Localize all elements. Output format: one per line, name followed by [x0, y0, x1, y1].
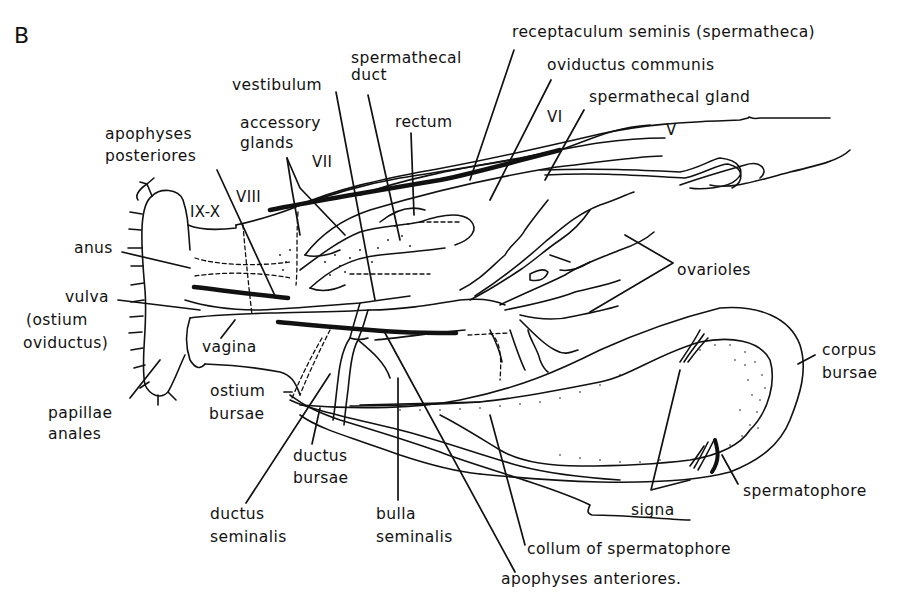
- segment-viii: VIII: [236, 188, 261, 207]
- panel-letter: B: [14, 26, 29, 45]
- ovarioles-shape: [460, 192, 654, 372]
- label-ostium-bursae-line2: bursae: [209, 405, 265, 424]
- label-spermathecal-duct-line2: duct: [351, 66, 387, 85]
- label-bulla-seminalis-line1: bulla: [376, 505, 416, 524]
- label-vagina: vagina: [202, 338, 257, 357]
- label-apophyses-posteriores-line1: apophyses: [105, 125, 192, 144]
- label-accessory-glands-line1: accessory: [240, 114, 321, 133]
- label-spermatophore: spermatophore: [743, 482, 867, 501]
- segment-vii: VII: [312, 153, 332, 172]
- label-ductus-seminalis-line2: seminalis: [210, 528, 287, 547]
- papillae-anales-shape: [128, 178, 190, 405]
- label-papillae-anales-line1: papillae: [48, 404, 112, 423]
- label-ductus-seminalis-line1: ductus: [210, 505, 265, 524]
- label-ostium-bursae-line1: ostium: [210, 382, 265, 401]
- label-anus: anus: [74, 239, 113, 258]
- dashed-lines: [195, 212, 508, 398]
- label-corpus-bursae-line2: bursae: [822, 364, 878, 383]
- label-papillae-anales-line2: anales: [48, 425, 101, 444]
- label-ovarioles: ovarioles: [677, 261, 751, 280]
- label-rectum: rectum: [395, 113, 453, 132]
- label-corpus-bursae-line1: corpus: [822, 341, 877, 360]
- segment-ix-x: IX-X: [190, 203, 221, 222]
- signa-shape: [680, 330, 718, 472]
- label-oviductus-communis: oviductus communis: [547, 56, 714, 75]
- segment-v: V: [666, 121, 677, 140]
- reproductive-system-diagram: B receptaculum seminis (spermatheca) spe…: [0, 0, 909, 599]
- label-collum-of-spermatophore: collum of spermatophore: [527, 540, 731, 559]
- corpus-bursae-shape: [290, 308, 803, 483]
- label-vulva-line3: oviductus): [23, 334, 108, 353]
- label-signa: signa: [631, 501, 675, 520]
- label-vulva-line2: (ostium: [26, 311, 88, 330]
- label-apophyses-anteriores: apophyses anteriores.: [501, 570, 681, 589]
- label-accessory-glands-line2: glands: [240, 134, 294, 153]
- label-spermathecal-gland: spermathecal gland: [589, 88, 750, 107]
- segment-vi: VI: [547, 108, 563, 127]
- label-vulva-line1: vulva: [65, 288, 109, 307]
- label-receptaculum-seminis: receptaculum seminis (spermatheca): [512, 23, 815, 42]
- label-bulla-seminalis-line2: seminalis: [376, 528, 453, 547]
- label-apophyses-posteriores-line2: posteriores: [105, 147, 196, 166]
- label-vestibulum: vestibulum: [232, 76, 322, 95]
- label-ductus-bursae-line1: ductus: [293, 447, 348, 466]
- anatomy-drawing: [0, 0, 909, 599]
- label-ductus-bursae-line2: bursae: [293, 469, 349, 488]
- accessory-glands-shape: [300, 208, 474, 291]
